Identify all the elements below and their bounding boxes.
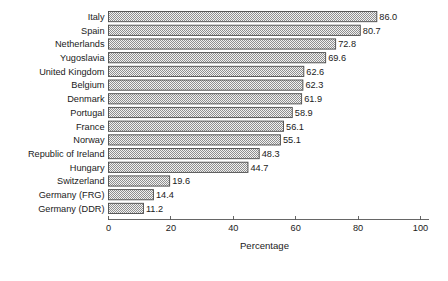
bar [109, 107, 293, 117]
category-label: Netherlands [55, 39, 105, 49]
bar [109, 25, 361, 35]
bar [109, 39, 336, 49]
bar-value-label: 62.6 [306, 67, 324, 77]
category-label: Yugoslavia [60, 53, 105, 63]
bar-value-label: 62.3 [305, 80, 323, 90]
bar [109, 190, 154, 200]
x-axis-title: Percentage [240, 240, 289, 251]
bar [109, 12, 377, 22]
category-label: Germany (DDR) [38, 204, 104, 214]
category-label: France [76, 122, 105, 132]
bar-chart-figure: ItalySpainNetherlandsYugoslaviaUnited Ki… [0, 0, 448, 281]
bar [109, 121, 284, 131]
x-axis-tick-label: 100 [413, 223, 428, 233]
x-axis-tick-label: 80 [353, 223, 363, 233]
x-axis-tick-label: 20 [166, 223, 176, 233]
bar [109, 53, 326, 63]
bar [109, 135, 281, 145]
category-label: Spain [81, 26, 105, 36]
x-axis-tick-label: 40 [228, 223, 238, 233]
bar [109, 80, 303, 90]
x-axis-tick-label: 0 [106, 223, 111, 233]
category-label: Hungary [70, 163, 105, 173]
bar-value-label: 14.4 [156, 190, 174, 200]
x-axis-tick-label: 60 [291, 223, 301, 233]
category-label: Republic of Ireland [28, 149, 105, 159]
bar-value-label: 80.7 [363, 26, 381, 36]
category-label: United Kingdom [39, 67, 105, 77]
bar [109, 66, 304, 76]
category-label: Germany (FRG) [39, 190, 105, 200]
chart-canvas: ItalySpainNetherlandsYugoslaviaUnited Ki… [0, 0, 448, 281]
bar-value-label: 11.2 [146, 204, 163, 214]
category-label: Denmark [67, 94, 105, 104]
bar [109, 94, 302, 104]
bar-value-label: 56.1 [286, 122, 304, 132]
bar-value-label: 61.9 [304, 94, 322, 104]
category-label: Switzerland [57, 176, 105, 186]
bar-value-label: 55.1 [283, 135, 301, 145]
bar-value-label: 58.9 [295, 108, 313, 118]
bar [109, 176, 170, 186]
bar [109, 203, 144, 213]
bar-value-label: 44.7 [250, 163, 268, 173]
bar-value-label: 72.8 [338, 39, 356, 49]
bar [109, 162, 248, 172]
bar-value-label: 86.0 [379, 12, 397, 22]
bar [109, 149, 260, 159]
bar-value-label: 19.6 [172, 176, 190, 186]
category-label: Norway [73, 135, 105, 145]
category-label: Italy [88, 12, 105, 22]
category-label: Portugal [70, 108, 104, 118]
bar-value-label: 48.3 [262, 149, 280, 159]
bar-value-label: 69.6 [328, 53, 346, 63]
category-label: Belgium [71, 80, 105, 90]
